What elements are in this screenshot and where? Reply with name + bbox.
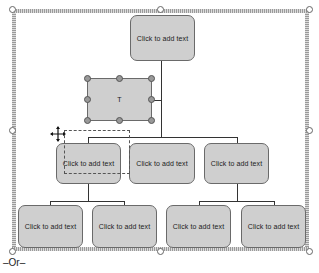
frame-resize-handle-bottom-right[interactable] — [306, 248, 313, 255]
frame-resize-handle-middle-right[interactable] — [306, 127, 313, 134]
connector-left-horizontal — [50, 201, 125, 202]
org-node-top[interactable]: Click to add text — [130, 15, 195, 61]
or-caption: –Or– — [3, 257, 25, 268]
selection-handle[interactable] — [148, 75, 155, 82]
frame-resize-handle-middle-left[interactable] — [9, 127, 16, 134]
org-node-level3-3[interactable]: Click to add text — [166, 205, 231, 248]
selection-handle[interactable] — [148, 96, 155, 103]
org-node-level2-2[interactable]: Click to add text — [129, 143, 195, 184]
frame-resize-handle-top-left[interactable] — [9, 6, 16, 13]
selection-handle[interactable] — [116, 75, 123, 82]
org-node-level3-4[interactable]: Click to add text — [241, 205, 306, 248]
org-node-level3-2[interactable]: Click to add text — [92, 205, 157, 248]
org-node-level2-3[interactable]: Click to add text — [204, 143, 269, 184]
connector-right-vertical — [237, 183, 238, 201]
selection-handle[interactable] — [84, 96, 91, 103]
move-cursor-icon — [50, 126, 66, 142]
selection-handle[interactable] — [84, 75, 91, 82]
selection-handle[interactable] — [148, 117, 155, 124]
frame-resize-handle-bottom-center[interactable] — [157, 248, 164, 255]
frame-resize-handle-top-center[interactable] — [157, 6, 164, 13]
org-node-level3-1[interactable]: Click to add text — [18, 205, 83, 248]
connector-right-horizontal — [199, 201, 275, 202]
frame-resize-handle-top-right[interactable] — [306, 6, 313, 13]
selection-handle[interactable] — [84, 117, 91, 124]
connector-left-vertical — [88, 183, 89, 201]
frame-resize-handle-bottom-left[interactable] — [9, 248, 16, 255]
selection-handle[interactable] — [116, 117, 123, 124]
drag-outline — [64, 130, 130, 174]
connector-top-vertical — [161, 60, 162, 137]
org-node-assistant[interactable]: T — [87, 78, 152, 121]
